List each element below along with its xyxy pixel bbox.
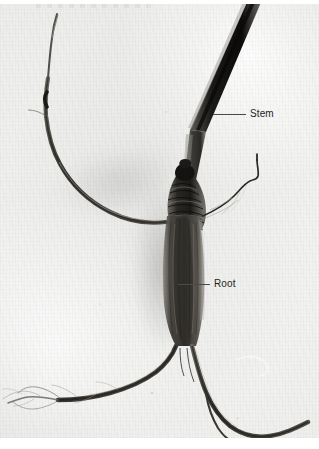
- figure-container: Stem Root: [0, 0, 319, 449]
- white-thread: [236, 357, 268, 376]
- callout-label-stem: Stem: [246, 108, 274, 120]
- callout-label-root: Root: [210, 278, 236, 290]
- stem-part: [183, 4, 262, 180]
- callout-root: Root: [178, 278, 236, 290]
- leader-line-root: [178, 284, 210, 285]
- leader-line-stem: [213, 114, 246, 115]
- callout-stem: Stem: [213, 108, 274, 120]
- lateral-root-right: [203, 154, 258, 218]
- root-fork: [58, 346, 308, 438]
- photograph-plate: [0, 4, 319, 438]
- lateral-root-upper-left: [28, 14, 166, 223]
- plant-specimen-illustration: [0, 4, 319, 438]
